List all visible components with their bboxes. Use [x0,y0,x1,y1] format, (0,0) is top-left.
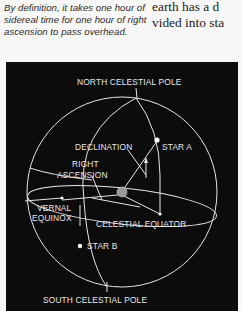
label-celestial-equator: CELESTIAL EQUATOR [96,219,186,229]
vernal-equinox-point [60,196,63,199]
celestial-sphere-svg: NORTH CELESTIAL POLE DECLINATION STAR A … [0,0,242,311]
star-a-point [154,137,159,142]
star-b-point [78,244,82,248]
label-star-b: STAR B [87,241,118,251]
earth-icon [117,187,127,197]
declination-arrowhead-icon [144,157,148,163]
label-ascension: ASCENSION [57,170,108,180]
hour-circle-star-b [83,98,136,287]
label-south-celestial-pole: SOUTH CELESTIAL POLE [43,295,147,305]
declination-pointer [128,150,146,175]
label-declination: DECLINATION [75,142,132,152]
north-pole-axis-tick [136,88,137,98]
celestial-sphere-diagram: NORTH CELESTIAL POLE DECLINATION STAR A … [6,62,238,311]
label-star-a: STAR A [162,142,192,152]
right-ascension-arc [92,198,140,207]
vernal-equinox-axis [25,198,62,201]
label-vernal: VERNAL [37,203,72,213]
label-north-celestial-pole: NORTH CELESTIAL POLE [77,77,182,87]
label-equinox: EQUINOX [32,213,72,223]
label-right: RIGHT [72,159,99,169]
equator-point [158,212,161,215]
hour-circle-star-a [136,98,160,213]
earth-to-vernal-line [62,195,118,200]
